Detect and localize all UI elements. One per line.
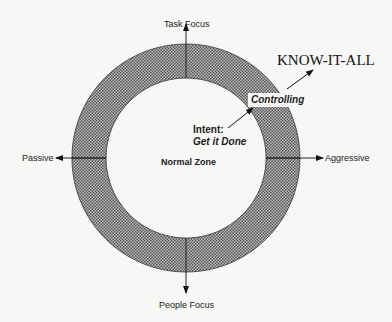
know-it-all-arrow	[287, 70, 313, 89]
intent-label: Intent:	[193, 124, 224, 135]
know-it-all-label: KNOW-IT-ALL	[277, 52, 375, 69]
intent-arrow	[228, 108, 253, 128]
normal-zone-label: Normal Zone	[161, 157, 216, 167]
controlling-label: Controlling	[251, 94, 304, 105]
intent-value: Get it Done	[193, 136, 246, 147]
task-focus-label: Task Focus	[164, 19, 210, 29]
passive-label: Passive	[22, 153, 54, 163]
people-focus-label: People Focus	[159, 300, 214, 310]
aggressive-label: Aggressive	[325, 153, 370, 163]
